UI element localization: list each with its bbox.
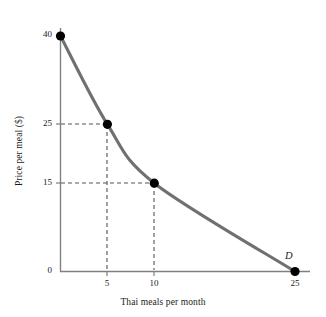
y-tick-label-0: 0 bbox=[26, 265, 52, 275]
data-point-marker bbox=[150, 179, 159, 188]
y-tick-label-25: 25 bbox=[26, 118, 52, 128]
demand-curve-label: D bbox=[285, 250, 293, 261]
demand-curve-path bbox=[61, 36, 296, 272]
x-tick-label-25: 25 bbox=[282, 278, 308, 288]
y-tick-label-40: 40 bbox=[26, 29, 52, 39]
x-axis-title: Thai meals per month bbox=[0, 297, 326, 307]
x-tick-label-10: 10 bbox=[141, 278, 167, 288]
demand-curve-chart: 40 25 15 0 5 10 25 D Thai meals per mont… bbox=[0, 0, 326, 317]
data-point-marker bbox=[56, 31, 65, 40]
x-tick-label-5: 5 bbox=[94, 278, 120, 288]
data-point-marker bbox=[103, 120, 112, 129]
data-point-marker bbox=[290, 267, 299, 276]
y-tick-label-15: 15 bbox=[26, 177, 52, 187]
y-axis-title: Price per meal ($) bbox=[14, 86, 24, 216]
